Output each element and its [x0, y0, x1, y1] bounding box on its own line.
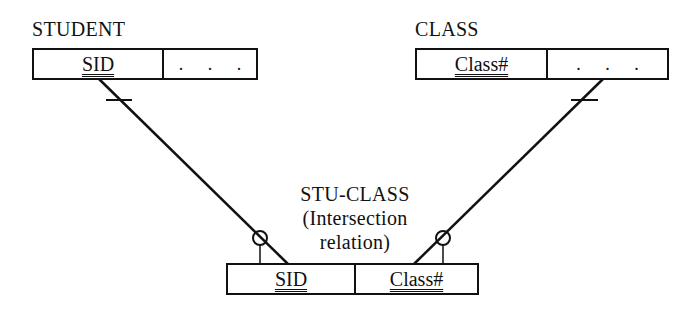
ellipsis-label: . . .	[169, 54, 252, 75]
student-entity-title: STUDENT	[32, 18, 125, 40]
stuclass-class-field: Class#	[356, 265, 477, 293]
student-to-stuclass-connector	[99, 79, 288, 264]
class-number-label: Class#	[455, 53, 508, 76]
ellipsis-label: . . .	[566, 54, 649, 75]
stuclass-entity-box: SID Class#	[226, 263, 479, 295]
class-to-stuclass-connector	[414, 79, 603, 264]
student-key-field: SID	[34, 50, 164, 78]
student-sid-label: SID	[82, 53, 114, 76]
class-entity-box: Class# . . .	[415, 48, 669, 80]
class-key-field: Class#	[417, 50, 548, 78]
stuclass-title-line-2: (Intersection	[270, 206, 440, 230]
stuclass-entity-title: STU-CLASS (Intersection relation)	[270, 182, 440, 254]
class-entity-title: CLASS	[415, 18, 479, 40]
student-other-fields: . . .	[164, 50, 256, 78]
stuclass-sid-field: SID	[228, 265, 356, 293]
stuclass-sid-label: SID	[275, 268, 307, 291]
stuclass-class-number-label: Class#	[390, 268, 443, 291]
stuclass-title-line-1: STU-CLASS	[270, 182, 440, 206]
stuclass-title-line-3: relation)	[270, 230, 440, 254]
class-other-fields: . . .	[548, 50, 667, 78]
student-entity-box: SID . . .	[32, 48, 258, 80]
